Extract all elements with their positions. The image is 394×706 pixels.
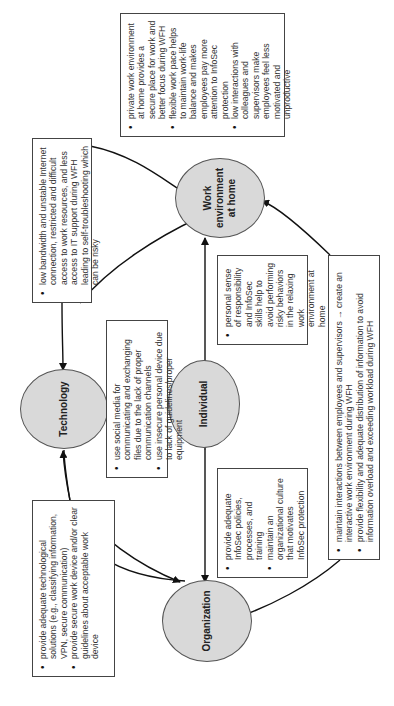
box-personal-responsibility: personal sense of responsibility and Inf… [217, 255, 308, 345]
bullet: low bandwidth and unstable Internet conn… [38, 145, 100, 285]
bullet: maintain an organizational culture that … [265, 475, 307, 560]
bullet: maintain interactions between employees … [334, 262, 355, 542]
node-technology-label: Technology [58, 381, 70, 436]
box-wfh-environment: private work environment at home provide… [120, 13, 285, 137]
bullet: provide adequate technological solutions… [38, 507, 69, 659]
node-technology: Technology [20, 369, 108, 449]
node-work-environment: Work environment at home [175, 158, 265, 238]
bullet: private work environment at home provide… [126, 20, 168, 119]
bullet: provide secure work device and/or clear … [69, 507, 100, 659]
node-individual-label: Individual [198, 381, 210, 428]
box-technology-issues: low bandwidth and unstable Internet conn… [32, 138, 92, 303]
node-organization: Organization [162, 580, 252, 662]
node-organization-label: Organization [201, 590, 213, 651]
box-technology-solutions: provide adequate technological solutions… [32, 500, 115, 677]
bullet: use social media for communicating and e… [112, 327, 154, 460]
bullet: low interactions with colleagues and sup… [230, 20, 292, 119]
bullet: provide adequate InfoSec policies, proce… [223, 475, 265, 560]
box-infosec-policies: provide adequate InfoSec policies, proce… [217, 468, 308, 578]
box-interactions: maintain interactions between employees … [328, 255, 380, 560]
bullet: personal sense of responsibility and Inf… [223, 262, 327, 327]
node-work-environment-label: Work environment at home [202, 166, 238, 230]
bullet: provide flexibility and adequate distrib… [355, 262, 376, 542]
bullet: flexible work pace helps to maintain wor… [168, 20, 230, 119]
bullet: use insecure personal device due to lack… [154, 327, 185, 460]
diagram-canvas: Technology Work environment at home Indi… [0, 0, 394, 706]
box-individual-technology: use social media for communicating and e… [106, 320, 168, 478]
